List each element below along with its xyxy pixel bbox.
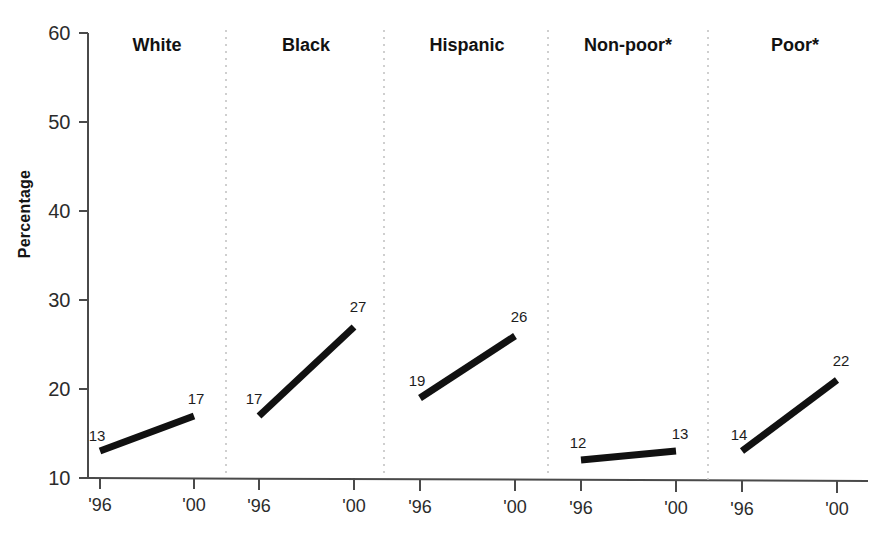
data-line-white xyxy=(100,416,194,451)
x-tick-label-white-96: '96 xyxy=(75,495,125,516)
x-tick-label-non-poor-96: '96 xyxy=(556,498,606,519)
x-tick-label-white-00: '00 xyxy=(169,495,219,516)
value-label-white-96: 13 xyxy=(89,427,106,444)
x-axis-line xyxy=(88,478,868,481)
value-label-non-poor-96: 12 xyxy=(570,434,587,451)
data-line-black xyxy=(259,327,354,416)
value-label-non-poor-00: 13 xyxy=(672,425,689,442)
data-line-non-poor xyxy=(581,451,676,460)
value-label-black-96: 17 xyxy=(246,390,263,407)
x-tick-label-black-96: '96 xyxy=(234,496,284,517)
value-label-hispanic-00: 26 xyxy=(511,308,528,325)
chart-container: Percentage 60 50 40 30 20 10 White Black… xyxy=(0,0,870,544)
value-label-poor-00: 22 xyxy=(833,352,850,369)
x-tick-label-black-00: '00 xyxy=(329,496,379,517)
value-label-black-00: 27 xyxy=(350,298,367,315)
data-line-poor xyxy=(742,380,837,451)
value-label-white-00: 17 xyxy=(188,390,205,407)
x-tick-label-hispanic-96: '96 xyxy=(395,497,445,518)
value-label-poor-96: 14 xyxy=(731,426,748,443)
x-tick-label-poor-96: '96 xyxy=(717,499,767,520)
value-label-hispanic-96: 19 xyxy=(409,372,426,389)
x-tick-label-poor-00: '00 xyxy=(812,499,862,520)
data-line-hispanic xyxy=(420,336,515,398)
x-tick-label-non-poor-00: '00 xyxy=(651,498,701,519)
x-tick-label-hispanic-00: '00 xyxy=(490,497,540,518)
plot-area xyxy=(0,0,870,544)
